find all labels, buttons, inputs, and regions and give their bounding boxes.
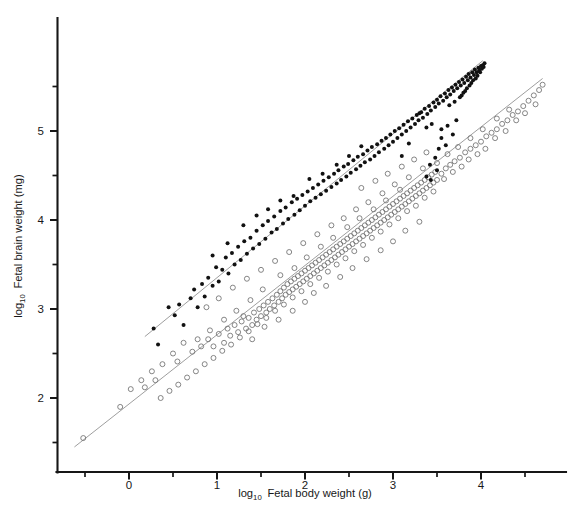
data-point-filled (454, 118, 458, 122)
data-point-filled (270, 230, 274, 234)
data-point-filled (220, 268, 224, 272)
data-point-filled (167, 305, 171, 309)
data-point-filled (290, 200, 294, 204)
x-tick-label: 0 (126, 479, 132, 491)
data-point-filled (308, 199, 312, 203)
data-point-filled (251, 246, 255, 250)
data-point-filled (391, 140, 395, 144)
data-point-filled (478, 70, 482, 74)
data-point-filled (447, 103, 451, 107)
data-point-filled (284, 206, 288, 210)
data-point-filled (196, 305, 200, 309)
data-point-filled (224, 255, 228, 259)
data-point-filled (335, 182, 339, 186)
data-point-filled (424, 125, 428, 129)
data-point-filled (203, 295, 207, 299)
data-point-filled (445, 95, 449, 99)
data-point-filled (316, 182, 320, 186)
data-point-filled (377, 150, 381, 154)
data-point-filled (431, 101, 435, 105)
data-point-filled (266, 207, 270, 211)
data-point-filled (358, 164, 362, 168)
data-point-filled (446, 88, 450, 92)
data-point-filled (457, 80, 461, 84)
scatter-plot-figure: 012342345 log10 Fetal body weight (g) lo… (0, 0, 569, 518)
data-point-filled (429, 109, 433, 113)
data-point-filled (226, 241, 230, 245)
data-point-filled (452, 89, 456, 93)
data-point-filled (406, 119, 410, 123)
data-point-filled (361, 152, 365, 156)
data-point-filled (266, 219, 270, 223)
data-point-filled (388, 133, 392, 137)
data-point-filled (430, 122, 434, 126)
data-point-filled (441, 99, 445, 103)
data-point-filled (242, 239, 246, 243)
data-point-filled (226, 271, 230, 275)
y-tick-label: 2 (38, 392, 44, 404)
data-point-filled (278, 209, 282, 213)
y-tick-label: 3 (38, 303, 44, 315)
data-point-filled (425, 112, 429, 116)
data-point-filled (404, 129, 408, 133)
data-point-filled (461, 77, 465, 81)
data-point-filled (346, 162, 350, 166)
data-point-filled (400, 133, 404, 137)
data-point-filled (182, 323, 186, 327)
data-point-filled (417, 118, 421, 122)
data-point-filled (455, 86, 459, 90)
data-point-filled (448, 93, 452, 97)
data-point-filled (152, 327, 156, 331)
data-point-filled (339, 178, 343, 182)
data-point-filled (400, 154, 404, 158)
data-point-filled (397, 126, 401, 130)
data-point-filled (298, 208, 302, 212)
data-point-filled (336, 168, 340, 172)
data-point-filled (439, 127, 443, 131)
data-point-filled (435, 168, 439, 172)
data-point-filled (368, 157, 372, 161)
data-point-filled (156, 343, 160, 347)
data-point-filled (321, 172, 325, 176)
data-point-filled (395, 136, 399, 140)
data-point-filled (245, 252, 249, 256)
data-point-filled (413, 122, 417, 126)
data-point-filled (433, 105, 437, 109)
data-point-filled (307, 177, 311, 181)
data-point-filled (257, 242, 261, 246)
data-point-filled (427, 104, 431, 108)
data-point-filled (347, 154, 351, 158)
data-point-filled (359, 144, 363, 148)
data-point-filled (272, 214, 276, 218)
data-point-filled (206, 276, 210, 280)
data-point-filled (306, 190, 310, 194)
data-point-filled (214, 265, 218, 269)
data-point-filled (295, 197, 299, 201)
data-point-filled (446, 124, 450, 128)
data-point-filled (483, 61, 487, 65)
data-point-filled (236, 245, 240, 249)
data-point-filled (177, 303, 181, 307)
data-point-filled (286, 217, 290, 221)
y-tick-label: 4 (38, 214, 45, 226)
data-point-filled (458, 95, 462, 99)
data-point-filled (453, 83, 457, 87)
data-point-filled (241, 223, 245, 227)
data-point-filled (429, 178, 433, 182)
data-point-filled (437, 147, 441, 151)
data-point-filled (255, 214, 259, 218)
data-point-filled (453, 100, 457, 104)
data-point-filled (314, 196, 318, 200)
data-point-filled (321, 179, 325, 183)
data-point-filled (351, 158, 355, 162)
data-point-filled (375, 142, 379, 146)
data-point-filled (300, 193, 304, 197)
data-point-filled (255, 229, 259, 233)
data-point-filled (421, 116, 425, 120)
x-tick-label: 4 (478, 479, 485, 491)
data-point-filled (384, 136, 388, 140)
data-point-filled (370, 145, 374, 149)
data-point-filled (217, 279, 221, 283)
data-point-filled (332, 172, 336, 176)
x-tick-label: 3 (390, 479, 396, 491)
